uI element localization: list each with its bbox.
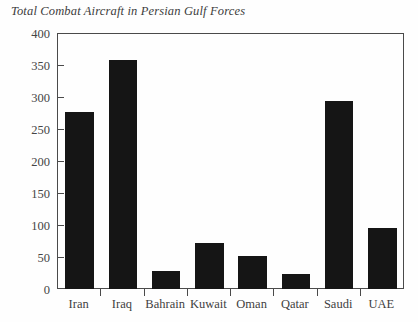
y-axis-tick-mark	[57, 33, 64, 34]
x-axis-tick-label: Iraq	[100, 296, 143, 312]
bar	[195, 243, 224, 289]
bar	[238, 256, 267, 289]
x-axis-tick-label: Kuwait	[187, 296, 230, 312]
y-axis-tick-mark	[57, 97, 64, 98]
chart-figure: Total Combat Aircraft in Persian Gulf Fo…	[0, 0, 418, 322]
y-axis-tick-mark	[57, 65, 64, 66]
x-axis-labels: IranIraqBahrainKuwaitOmanQatarSaudiUAE	[57, 296, 404, 318]
x-axis-tick-mark	[187, 289, 188, 296]
chart-title: Total Combat Aircraft in Persian Gulf Fo…	[11, 3, 245, 19]
y-axis-tick-mark	[57, 161, 64, 162]
x-axis-tick-mark	[273, 289, 274, 296]
x-axis-tick-mark	[100, 289, 101, 296]
y-axis-tick-label: 200	[8, 155, 50, 170]
x-axis-tick-label: Oman	[230, 296, 273, 312]
x-axis-tick-label: Bahrain	[144, 296, 187, 312]
x-axis-tick-mark	[144, 289, 145, 296]
x-axis-tick-label: Qatar	[273, 296, 316, 312]
bar	[109, 60, 138, 289]
y-axis-tick-label: 400	[8, 27, 50, 42]
y-axis-tick-label: 250	[8, 123, 50, 138]
y-axis-tick-mark	[57, 225, 64, 226]
bar	[65, 112, 94, 289]
y-axis-tick-label: 300	[8, 91, 50, 106]
x-axis-tick-mark	[360, 289, 361, 296]
bar	[282, 274, 311, 289]
bar-series	[58, 34, 403, 289]
x-axis-tick-label: Iran	[57, 296, 100, 312]
y-axis-tick-mark	[57, 193, 64, 194]
x-axis-tick-mark	[230, 289, 231, 296]
x-axis-tick-label: UAE	[360, 296, 403, 312]
bar	[368, 228, 397, 289]
y-axis-tick-mark	[57, 129, 64, 130]
y-axis-tick-label: 350	[8, 59, 50, 74]
y-axis-tick-label: 100	[8, 219, 50, 234]
y-axis-tick-label: 0	[8, 283, 50, 298]
y-axis-tick-mark	[57, 257, 64, 258]
bar	[152, 271, 181, 289]
x-axis-tick-label: Saudi	[317, 296, 360, 312]
y-axis-tick-label: 50	[8, 251, 50, 266]
bar	[325, 101, 354, 289]
x-axis-tick-mark	[317, 289, 318, 296]
y-axis-tick-label: 150	[8, 187, 50, 202]
